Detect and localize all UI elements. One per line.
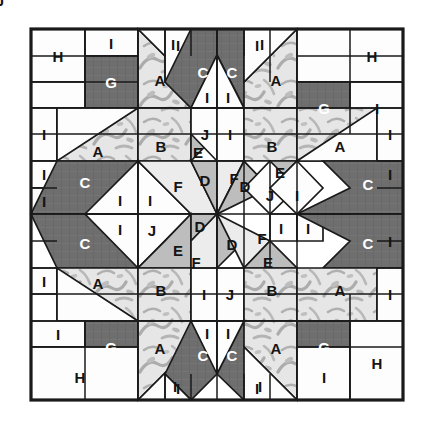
quilt-piece-ctr-I-se1 [270, 214, 297, 241]
quilt-piece-corner-I-bl [31, 321, 85, 347]
quilt-piece-corner-H-br [350, 321, 403, 400]
quilt-diagram-container: HIGAIICCIIIAIHGIIABEJIBAIIICIIFDFDEJJICI… [0, 0, 435, 429]
quilt-piece-corner-I-br [297, 347, 350, 400]
quilt-piece-corner-I-tl [85, 29, 138, 56]
quilt-piece-edge-I-left-4 [31, 268, 57, 294]
quilt-piece-corner-H-tl-lower [31, 82, 85, 108]
quilt-block-svg: HIGAIICCIIIAIHGIIABEJIBAIIICIIFDFDEJJICI… [0, 0, 435, 429]
